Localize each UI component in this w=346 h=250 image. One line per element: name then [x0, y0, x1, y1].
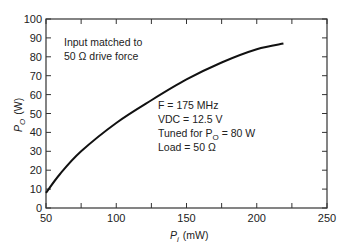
x-tick-label: 50 — [40, 212, 52, 224]
y-tick-label: 40 — [30, 126, 42, 138]
x-axis-label: Pi(mW) — [170, 229, 208, 244]
y-tick-label: 10 — [30, 183, 42, 195]
y-axis-label: PO(W) — [12, 98, 27, 132]
y-tick-label: 60 — [30, 89, 42, 101]
y-tick-label: 20 — [30, 164, 42, 176]
chart: 0102030405060708090100 50100150200250 In… — [0, 0, 346, 250]
y-tick-label: 90 — [30, 32, 42, 44]
x-tick-label: 250 — [318, 212, 336, 224]
x-tick-label: 150 — [177, 212, 195, 224]
condition-vdc: VDC = 12.5 V — [158, 113, 223, 125]
y-tick-label: 30 — [30, 145, 42, 157]
y-tick-label: 50 — [30, 108, 42, 120]
y-tick-label: 100 — [24, 13, 42, 25]
y-tick-label: 80 — [30, 51, 42, 63]
y-tick-label: 70 — [30, 70, 42, 82]
x-tick-label: 100 — [107, 212, 125, 224]
condition-load: Load = 50 Ω — [158, 141, 216, 153]
annotation-note-2: 50 Ω drive force — [64, 50, 139, 62]
condition-tuned: Tuned for PO = 80 W — [158, 127, 255, 142]
x-tick-label: 200 — [248, 212, 266, 224]
condition-frequency: F = 175 MHz — [158, 99, 218, 111]
annotation-note-1: Input matched to — [64, 36, 142, 48]
